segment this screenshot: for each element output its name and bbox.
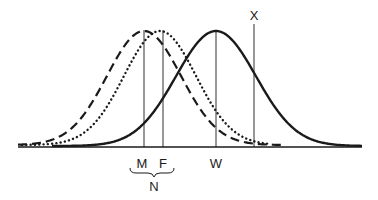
distribution-diagram: M F W X N: [0, 0, 378, 200]
label-f: F: [159, 156, 167, 171]
label-n: N: [149, 179, 158, 194]
label-w: W: [210, 156, 223, 171]
label-m: M: [137, 156, 148, 171]
label-x: X: [250, 8, 259, 23]
dashed-distribution-curve-m: [18, 31, 285, 145]
solid-distribution-curve-w: [52, 31, 362, 146]
dotted-distribution-curve-f: [22, 31, 270, 145]
